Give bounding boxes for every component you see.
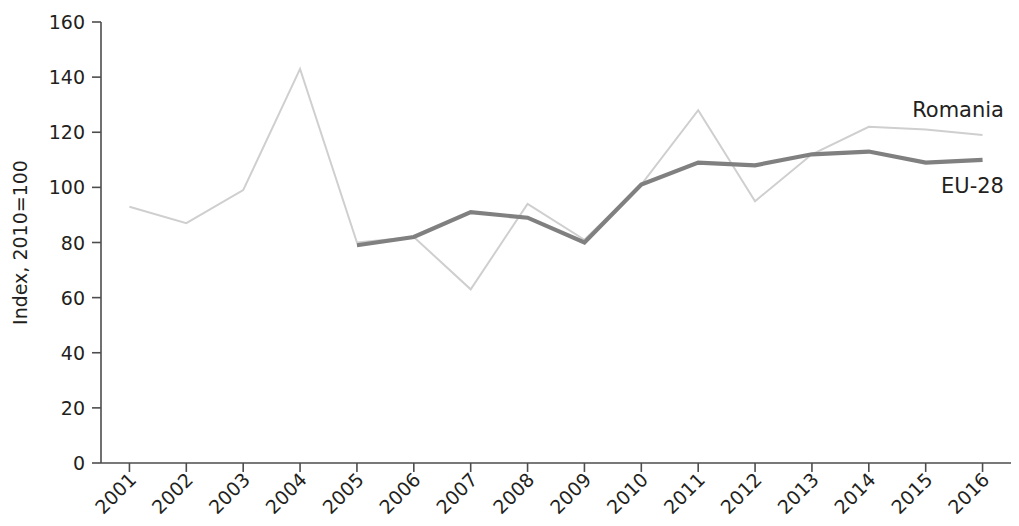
y-tick-label: 80 [61,232,85,254]
x-tick-label: 2001 [91,468,141,518]
x-tick-label: 2010 [602,468,652,518]
y-tick-label: 140 [49,66,85,88]
y-tick-label: 60 [61,287,85,309]
y-axis-tick-labels: 020406080100120140160 [49,11,85,474]
series-label-romania: Romania [912,98,1004,122]
line-chart: 020406080100120140160 200120022003200420… [0,0,1019,526]
series-line-romania [129,69,982,289]
series-label-eu28: EU-28 [941,174,1004,198]
y-axis-title: Index, 2010=100 [9,160,31,325]
chart-canvas: 020406080100120140160 200120022003200420… [0,0,1019,526]
x-tick-label: 2006 [375,468,425,518]
x-tick-label: 2002 [147,468,197,518]
x-tick-label: 2015 [887,468,937,518]
y-tick-label: 40 [61,342,85,364]
x-tick-label: 2012 [716,468,766,518]
x-tick-label: 2009 [546,468,596,518]
y-tick-label: 20 [61,397,85,419]
x-axis-tick-labels: 2001200220032004200520062007200820092010… [91,468,994,518]
x-tick-label: 2005 [318,468,368,518]
x-tick-label: 2013 [773,468,823,518]
y-axis-tick-marks [92,22,101,463]
y-tick-label: 100 [49,176,85,198]
y-tick-label: 160 [49,11,85,33]
series-line-eu-28 [357,152,983,246]
series-lines [129,69,982,289]
x-tick-label: 2014 [830,468,880,518]
x-tick-label: 2008 [489,468,539,518]
y-tick-label: 120 [49,121,85,143]
x-tick-label: 2016 [944,468,994,518]
x-tick-label: 2004 [261,468,311,518]
x-tick-label: 2011 [659,468,709,518]
x-tick-label: 2003 [204,468,254,518]
x-axis-tick-marks [129,463,982,472]
y-tick-label: 0 [73,452,85,474]
x-tick-label: 2007 [432,468,482,518]
